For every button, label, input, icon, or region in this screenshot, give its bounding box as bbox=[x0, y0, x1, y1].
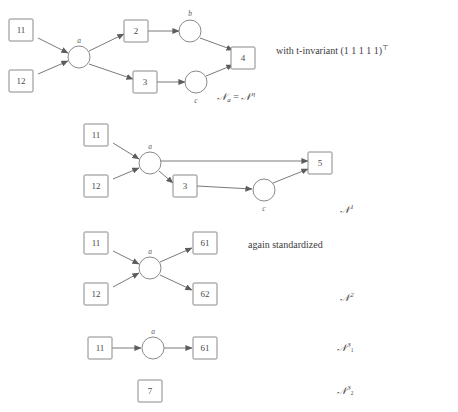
edge-n1-c-to-5 bbox=[273, 169, 308, 183]
edge-n2-11-to-a bbox=[113, 251, 139, 264]
transition-n2-a-label: a bbox=[148, 247, 152, 256]
place-3-label: 3 bbox=[143, 77, 148, 87]
net32-symbol: 𝒩 bbox=[337, 385, 347, 396]
place-2-label: 2 bbox=[134, 26, 139, 36]
place-n2-62-label: 62 bbox=[201, 289, 210, 299]
edge-b-to-4 bbox=[200, 38, 233, 50]
net-label-net0: 𝒩a = 𝒩η bbox=[217, 90, 255, 104]
transition-n1-a-label: a bbox=[148, 142, 152, 151]
place-n32-7-label: 7 bbox=[148, 386, 153, 396]
t-invariant-text: with t-invariant (1 1 1 1 1) bbox=[276, 45, 382, 56]
transition-a-label: a bbox=[77, 36, 81, 45]
net1-symbol: 𝒩 bbox=[340, 204, 350, 215]
petri-net-svg: 11 12 2 3 4 a b c 11 bbox=[0, 0, 458, 412]
place-n31-61-label: 61 bbox=[201, 343, 210, 353]
figure-canvas: 11 12 2 3 4 a b c 11 bbox=[0, 0, 458, 412]
t-invariant-transpose: ⊤ bbox=[382, 44, 389, 52]
edge-12-to-a bbox=[38, 61, 68, 74]
transition-b bbox=[179, 20, 201, 42]
edge-n2-a-to-61 bbox=[160, 248, 192, 262]
t-invariant-annotation: with t-invariant (1 1 1 1 1)⊤ bbox=[276, 44, 389, 56]
edge-a-to-2 bbox=[89, 34, 124, 51]
net-label-net32: 𝒩32 bbox=[337, 384, 354, 397]
net-label-net2: 𝒩2 bbox=[340, 291, 354, 304]
edge-n1-12-to-a bbox=[113, 168, 139, 179]
transition-n2-a bbox=[139, 257, 161, 279]
place-12-label: 12 bbox=[17, 76, 26, 86]
transition-n31-a-label: a bbox=[151, 327, 155, 336]
place-n2-61-label: 61 bbox=[201, 238, 210, 248]
transition-b-label: b bbox=[188, 9, 192, 18]
place-n1-3-label: 3 bbox=[183, 181, 188, 191]
transition-c bbox=[185, 71, 207, 93]
net-label-net1: 𝒩1 bbox=[340, 203, 354, 216]
again-standardized-annotation: again standardized bbox=[248, 239, 323, 250]
transition-a bbox=[68, 46, 90, 68]
place-n2-12-label: 12 bbox=[92, 289, 101, 299]
diagram-net-2: 11 12 61 62 a bbox=[84, 232, 217, 305]
net0-equals: = bbox=[231, 91, 242, 102]
edge-n1-a-to-3 bbox=[159, 171, 173, 183]
place-n1-12-label: 12 bbox=[92, 181, 101, 191]
edge-n1-11-to-a bbox=[113, 143, 139, 159]
place-n31-11-label: 11 bbox=[96, 343, 105, 353]
net0-symbol-2: 𝒩 bbox=[241, 91, 251, 102]
edge-n2-a-to-62 bbox=[160, 275, 192, 290]
edge-c-to-4 bbox=[206, 65, 233, 76]
diagram-net-31: 11 61 a bbox=[88, 327, 217, 359]
diagram-net-32: 7 bbox=[138, 380, 162, 402]
transition-n1-c-label: c bbox=[262, 204, 266, 213]
edge-n2-12-to-a bbox=[113, 273, 139, 287]
net0-superscript: η bbox=[252, 90, 255, 98]
transition-n31-a bbox=[142, 337, 164, 359]
net0-symbol: 𝒩 bbox=[217, 91, 227, 102]
place-4-label: 4 bbox=[241, 53, 246, 63]
net2-symbol: 𝒩 bbox=[340, 292, 350, 303]
again-standardized-text: again standardized bbox=[248, 239, 323, 250]
edge-a-to-3 bbox=[89, 64, 133, 79]
transition-n1-a bbox=[139, 152, 161, 174]
net-label-net31: 𝒩31 bbox=[337, 341, 354, 354]
net31-superscript-subscript: 1 bbox=[351, 347, 354, 353]
place-n2-11-label: 11 bbox=[92, 238, 101, 248]
diagram-net-1: 11 12 3 5 a c bbox=[84, 124, 332, 213]
net1-superscript: 1 bbox=[350, 203, 354, 211]
edge-11-to-a bbox=[38, 38, 68, 53]
net32-superscript-subscript: 2 bbox=[351, 390, 354, 396]
edge-n1-3-to-c bbox=[197, 186, 252, 189]
net2-superscript: 2 bbox=[350, 291, 354, 299]
place-n1-11-label: 11 bbox=[92, 130, 101, 140]
place-11-label: 11 bbox=[17, 25, 26, 35]
transition-c-label: c bbox=[194, 96, 198, 105]
transition-n1-c bbox=[253, 179, 275, 201]
net31-symbol: 𝒩 bbox=[337, 342, 347, 353]
place-n1-5-label: 5 bbox=[318, 158, 323, 168]
